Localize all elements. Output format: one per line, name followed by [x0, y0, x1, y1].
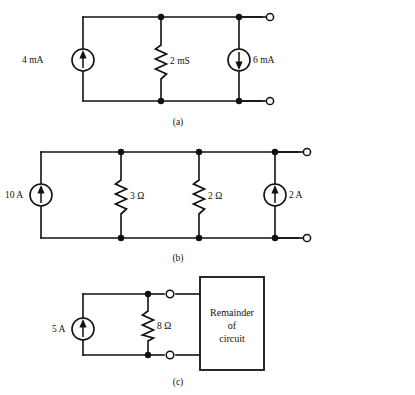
resistor-8ohm — [143, 311, 154, 341]
conductance-2ms-zigzag — [156, 45, 167, 79]
panel-a-node-bottom-mid — [158, 98, 164, 104]
current-source-4ma — [72, 49, 94, 71]
panel-c-open-terminal-top — [166, 290, 174, 298]
resistor-3ohm-zigzag — [116, 180, 127, 214]
current-source-6ma-label: 6 mA — [253, 55, 275, 65]
current-source-4ma-label: 4 mA — [22, 55, 44, 65]
panel-b-node-bottom-r3 — [118, 235, 124, 241]
panel-b-node-bottom-r2 — [196, 235, 202, 241]
resistor-2ohm — [194, 180, 205, 214]
current-source-6ma — [228, 49, 250, 71]
panel-b-caption: (b) — [172, 253, 183, 264]
panel-a-node-top-mid — [158, 14, 164, 20]
resistor-3ohm-label: 3 Ω — [130, 191, 144, 201]
panel-b: 10 A 3 Ω 2 Ω 2 A (b) — [5, 148, 311, 264]
panel-a-open-terminal-bottom — [266, 97, 273, 104]
panel-b-node-top-r3 — [118, 149, 124, 155]
resistor-2ohm-label: 2 Ω — [208, 191, 222, 201]
panel-a-open-terminal-top — [266, 13, 273, 20]
circuit-figure: 4 mA 2 mS 6 mA (a) — [0, 0, 415, 395]
panel-c: 5 A 8 Ω Remainder of circuit (c) — [52, 277, 264, 388]
panel-a-node-bottom-right — [236, 98, 242, 104]
panel-b-open-terminal-bottom — [303, 234, 310, 241]
current-source-2a — [264, 184, 286, 206]
remainder-of-circuit-line2: of — [228, 320, 237, 331]
panel-b-node-top-src — [272, 149, 278, 155]
panel-a: 4 mA 2 mS 6 mA (a) — [22, 13, 275, 128]
current-source-10a — [30, 184, 52, 206]
resistor-3ohm — [116, 180, 127, 214]
conductance-2ms — [156, 45, 167, 79]
panel-b-node-bottom-src — [272, 235, 278, 241]
conductance-2ms-label: 2 mS — [170, 56, 190, 66]
panel-c-caption: (c) — [173, 377, 184, 388]
panel-b-node-top-r2 — [196, 149, 202, 155]
current-source-5a-label: 5 A — [52, 324, 66, 334]
panel-b-open-terminal-top — [303, 148, 310, 155]
panel-c-open-terminal-bottom — [166, 351, 174, 359]
remainder-of-circuit-line1: Remainder — [210, 307, 255, 318]
current-source-10a-label: 10 A — [5, 190, 23, 200]
resistor-2ohm-zigzag — [194, 180, 205, 214]
remainder-of-circuit-line3: circuit — [219, 333, 245, 344]
panel-c-node-top — [145, 291, 151, 297]
resistor-8ohm-zigzag — [143, 311, 154, 341]
resistor-8ohm-label: 8 Ω — [157, 321, 171, 331]
circuit-canvas: 4 mA 2 mS 6 mA (a) — [0, 0, 415, 395]
panel-c-node-bottom — [145, 352, 151, 358]
current-source-2a-label: 2 A — [289, 190, 303, 200]
current-source-5a — [72, 318, 94, 340]
panel-a-caption: (a) — [173, 117, 184, 128]
panel-a-node-top-right — [236, 14, 242, 20]
